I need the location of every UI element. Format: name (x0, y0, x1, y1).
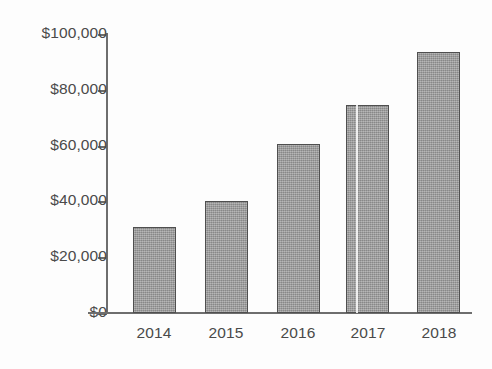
bar-chart-figure: $100,000 $80,000 $60,000 $40,000 $20,000… (0, 0, 492, 369)
bars-layer (0, 0, 492, 369)
bar-2016 (277, 144, 320, 313)
bar-2015 (205, 201, 248, 313)
bar-2014 (133, 227, 176, 314)
bar-2018 (417, 52, 460, 313)
x-tick-label-2016: 2016 (263, 324, 333, 342)
x-tick-label-2015: 2015 (191, 324, 261, 342)
x-tick-label-2014: 2014 (119, 324, 189, 342)
x-tick-label-2017: 2017 (333, 324, 403, 342)
scan-line-artifact (356, 105, 358, 313)
bar-2017 (346, 105, 389, 313)
x-tick-label-2018: 2018 (404, 324, 474, 342)
